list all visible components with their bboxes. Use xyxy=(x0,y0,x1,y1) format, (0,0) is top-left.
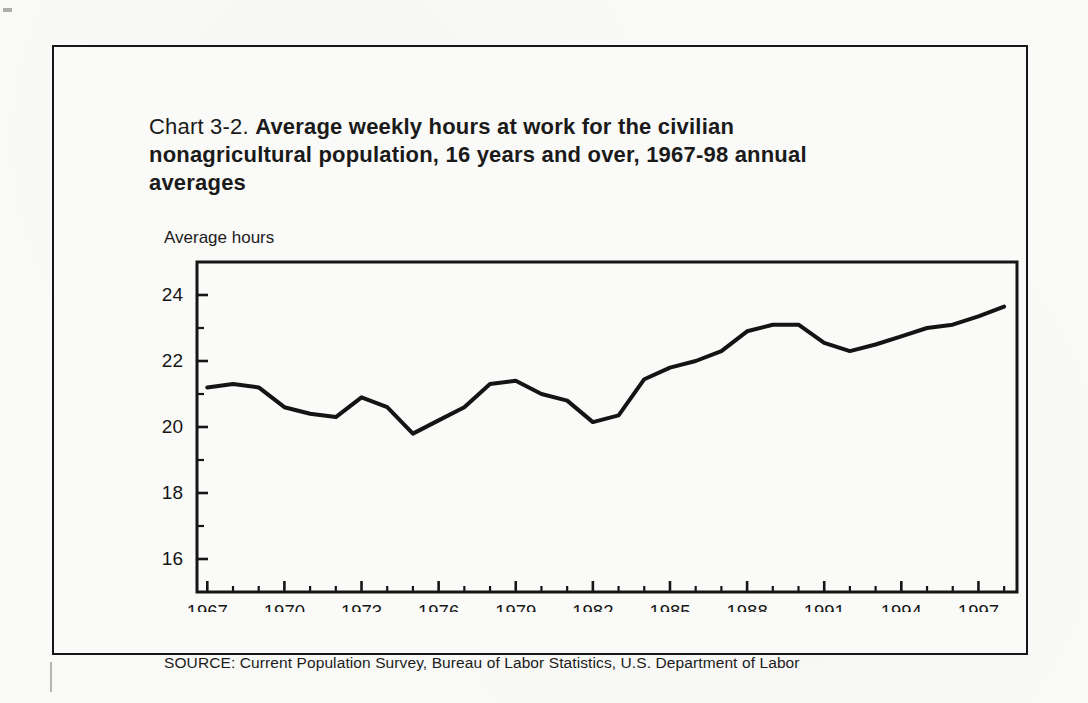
y-axis-tick-labels: 1618202224 xyxy=(162,284,184,569)
chart-number-label: Chart 3-2. xyxy=(149,114,249,139)
svg-text:1988: 1988 xyxy=(727,601,768,612)
svg-text:1967: 1967 xyxy=(187,601,228,612)
data-line xyxy=(207,307,1004,434)
y-axis-ticks xyxy=(197,295,208,559)
svg-text:1979: 1979 xyxy=(495,601,536,612)
svg-text:20: 20 xyxy=(162,416,183,437)
chart-title: Chart 3-2. Average weekly hours at work … xyxy=(149,113,809,197)
svg-text:1973: 1973 xyxy=(341,601,382,612)
x-axis-tick-labels: 1967197019731976197919821985198819911994… xyxy=(187,601,999,612)
scan-artifact-mark xyxy=(3,8,12,12)
chart-outer-frame: Chart 3-2. Average weekly hours at work … xyxy=(52,45,1028,655)
svg-text:22: 22 xyxy=(162,350,183,371)
scanned-page: Chart 3-2. Average weekly hours at work … xyxy=(0,0,1088,703)
plot-frame xyxy=(197,262,1017,592)
svg-text:1997: 1997 xyxy=(958,601,999,612)
svg-text:1982: 1982 xyxy=(572,601,613,612)
svg-text:1991: 1991 xyxy=(804,601,845,612)
source-note: SOURCE: Current Population Survey, Burea… xyxy=(164,654,800,672)
svg-text:18: 18 xyxy=(162,482,183,503)
svg-text:1994: 1994 xyxy=(881,601,922,612)
svg-text:1985: 1985 xyxy=(649,601,690,612)
x-axis-ticks xyxy=(207,581,1004,592)
svg-text:1970: 1970 xyxy=(264,601,305,612)
svg-text:16: 16 xyxy=(162,548,183,569)
svg-text:24: 24 xyxy=(162,284,184,305)
svg-text:1976: 1976 xyxy=(418,601,459,612)
y-axis-title: Average hours xyxy=(164,228,274,248)
scan-artifact-mark xyxy=(50,662,52,692)
line-chart-svg: 1618202224 19671970197319761979198219851… xyxy=(154,252,1034,612)
